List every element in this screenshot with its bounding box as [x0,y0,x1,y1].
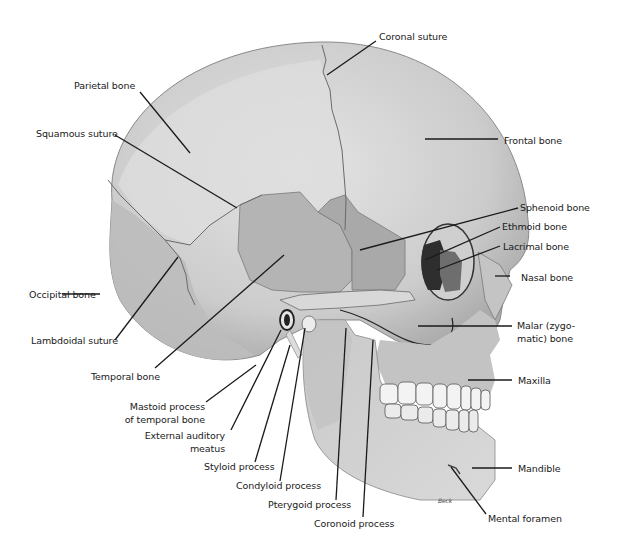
label-coronal-suture: Coronal suture [379,30,447,43]
label-malar-bone-2: matic) bone [517,332,573,345]
label-ethmoid-bone: Ethmoid bone [502,220,567,233]
label-lambdoidal-suture: Lambdoidal suture [31,334,118,347]
label-lacrimal-bone: Lacrimal bone [503,240,569,253]
artist-signature: Beck [438,494,452,507]
label-mastoid-process-2: of temporal bone [125,413,205,426]
label-condyloid-process: Condyloid process [236,479,321,492]
label-nasal-bone: Nasal bone [521,271,573,284]
label-parietal-bone: Parietal bone [74,79,135,92]
label-mandible: Mandible [518,462,560,475]
skull-diagram: Coronal suture Parietal bone Squamous su… [0,0,620,555]
label-coronoid-process: Coronoid process [314,517,394,530]
label-styloid-process: Styloid process [204,460,275,473]
label-pterygoid-process: Pterygoid process [268,498,351,511]
label-sphenoid-bone: Sphenoid bone [520,201,590,214]
label-malar-bone-1: Malar (zygo- [517,319,575,332]
label-maxilla: Maxilla [518,374,551,387]
styloid [286,330,302,358]
label-frontal-bone: Frontal bone [504,134,562,147]
label-mental-foramen: Mental foramen [488,512,562,525]
label-mastoid-process-1: Mastoid process [130,400,205,413]
label-squamous-suture: Squamous suture [36,127,118,140]
label-temporal-bone: Temporal bone [91,370,160,383]
label-external-auditory-2: meatus [190,442,225,455]
label-occipital-bone: Occipital bone [29,288,96,301]
label-external-auditory-1: External auditory [145,429,225,442]
